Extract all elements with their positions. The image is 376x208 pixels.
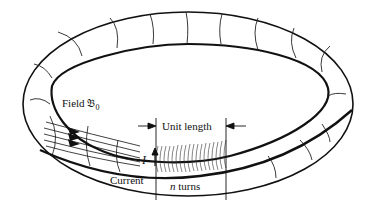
unit-length-label: Unit length <box>162 120 212 132</box>
toroid-diagram: Field 𝔅0 Unit length I Current n turns <box>0 0 376 208</box>
winding-segments <box>30 12 346 178</box>
current-label: Current <box>110 174 144 186</box>
field-lines <box>44 116 140 172</box>
turns-label: n turns <box>170 180 200 192</box>
dense-windings <box>156 140 226 172</box>
field-label: Field 𝔅0 <box>62 97 99 112</box>
